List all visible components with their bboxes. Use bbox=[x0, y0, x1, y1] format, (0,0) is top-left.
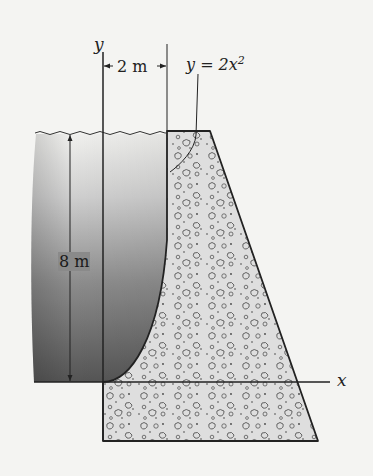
dimension-2m-label: 2 m bbox=[115, 57, 149, 76]
equation-base: y = 2x bbox=[186, 55, 238, 74]
curve-equation-label: y = 2x2 bbox=[186, 54, 245, 74]
equation-exponent: 2 bbox=[238, 54, 245, 67]
x-axis-label: x bbox=[337, 370, 347, 390]
y-axis-label: y bbox=[94, 34, 104, 54]
dimension-8m-label: 8 m bbox=[58, 252, 90, 271]
dam-diagram: y x 2 m 8 m y = 2x2 bbox=[0, 0, 373, 476]
